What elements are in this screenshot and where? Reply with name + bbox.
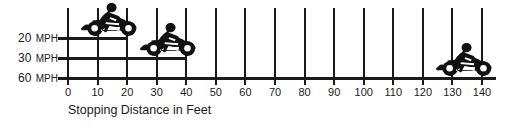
tick-mark-90 (333, 80, 335, 85)
tick-label-0: 0 (53, 86, 83, 98)
y-axis-label-20mph-speed: 20 (18, 31, 31, 45)
tick-mark-100 (363, 80, 365, 85)
tick-mark-80 (304, 80, 306, 85)
y-axis-label-30mph-speed: 30 (18, 51, 31, 65)
tick-mark-110 (392, 80, 394, 85)
tick-label-50: 50 (201, 86, 231, 98)
y-axis-label-30mph: 30 MPH (18, 48, 58, 66)
tick-label-130: 130 (437, 86, 467, 98)
y-axis-label-60mph: 60 MPH (18, 68, 58, 86)
gridline-60 (244, 8, 246, 77)
gridline-90 (333, 8, 335, 77)
gridline-70 (274, 8, 276, 77)
tick-mark-30 (156, 80, 158, 85)
tick-mark-40 (185, 80, 187, 85)
tick-label-10: 10 (83, 86, 113, 98)
tick-label-80: 80 (290, 86, 320, 98)
motorcycle-icon-30mph (138, 21, 200, 61)
tick-label-140: 140 (467, 86, 497, 98)
tick-mark-60 (244, 80, 246, 85)
tick-label-20: 20 (112, 86, 142, 98)
motorcycle-icon-20mph (79, 1, 141, 41)
tick-mark-10 (97, 80, 99, 85)
gridline-0 (67, 8, 69, 77)
y-axis-label-20mph-unit: MPH (36, 33, 58, 44)
gridline-100 (363, 8, 365, 77)
tick-label-30: 30 (142, 86, 172, 98)
y-axis-label-60mph-speed: 60 (18, 71, 31, 85)
gridline-110 (392, 8, 394, 77)
tick-mark-120 (422, 80, 424, 85)
tick-mark-0 (67, 80, 69, 85)
x-axis-line (58, 77, 496, 80)
y-axis-label-30mph-unit: MPH (36, 53, 58, 64)
tick-label-100: 100 (349, 86, 379, 98)
tick-label-110: 110 (378, 86, 408, 98)
tick-mark-20 (126, 80, 128, 85)
tick-mark-70 (274, 80, 276, 85)
x-axis-title: Stopping Distance in Feet (68, 103, 211, 117)
tick-label-60: 60 (230, 86, 260, 98)
tick-label-90: 90 (319, 86, 349, 98)
stopping-distance-chart: 20 MPH 30 MPH 60 MPH 0102030405060708090… (0, 0, 514, 128)
tick-label-120: 120 (408, 86, 438, 98)
y-axis-labels: 20 MPH 30 MPH 60 MPH (0, 0, 62, 128)
motorcycle-icon-60mph (434, 41, 496, 81)
gridline-80 (304, 8, 306, 77)
tick-mark-50 (215, 80, 217, 85)
tick-label-40: 40 (171, 86, 201, 98)
y-axis-label-20mph: 20 MPH (18, 28, 58, 46)
gridline-50 (215, 8, 217, 77)
gridline-120 (422, 8, 424, 77)
y-axis-label-60mph-unit: MPH (36, 73, 58, 84)
tick-label-70: 70 (260, 86, 290, 98)
